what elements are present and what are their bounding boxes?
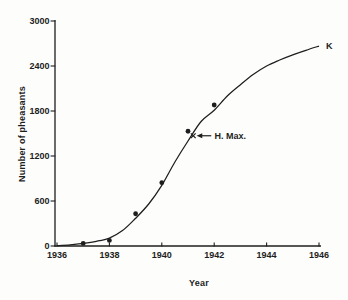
- axis-ticks: 1936193819401942194419460600120018002400…: [29, 16, 329, 260]
- hmax-annotation-group: [191, 133, 211, 138]
- data-point: [212, 103, 217, 108]
- data-point: [159, 180, 164, 185]
- growth-curve: [57, 46, 319, 246]
- x-tick-label: 1944: [257, 250, 277, 260]
- data-points-group: [81, 103, 217, 246]
- data-point: [133, 211, 138, 216]
- y-axis-title: Number of pheasants: [17, 86, 27, 182]
- data-point: [81, 241, 86, 246]
- figure: 1936193819401942194419460600120018002400…: [0, 0, 348, 300]
- y-tick-label: 1800: [29, 106, 49, 116]
- y-tick-label: 600: [34, 196, 49, 206]
- growth-curve-group: [57, 46, 319, 246]
- y-tick-label: 1200: [29, 151, 49, 161]
- x-tick-label: 1942: [204, 250, 224, 260]
- data-point: [107, 238, 112, 243]
- k-label: K: [326, 41, 333, 51]
- y-tick-label: 3000: [29, 16, 49, 26]
- pheasant-growth-chart: 1936193819401942194419460600120018002400…: [0, 0, 348, 300]
- x-tick-label: 1946: [309, 250, 329, 260]
- x-axis-title: Year: [189, 278, 209, 288]
- x-tick-label: 1938: [99, 250, 119, 260]
- hmax-label: H. Max.: [215, 131, 247, 141]
- y-tick-label: 2400: [29, 61, 49, 71]
- y-tick-label: 0: [44, 241, 49, 251]
- hmax-arrowhead: [197, 133, 203, 138]
- x-tick-label: 1936: [47, 250, 67, 260]
- x-tick-label: 1940: [152, 250, 172, 260]
- data-point: [186, 129, 191, 134]
